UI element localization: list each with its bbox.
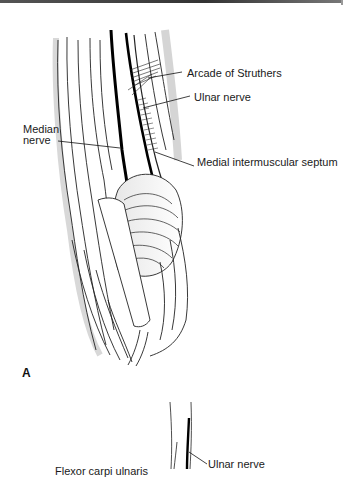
label-medial-intermuscular-septum: Medial intermuscular septum xyxy=(197,156,338,168)
panel-a-drawing xyxy=(56,30,188,366)
label-flexor-carpi-ulnaris: Flexor carpi ulnaris xyxy=(55,465,148,477)
label-median-nerve-line2: nerve xyxy=(23,134,51,146)
panel-letter-a: A xyxy=(22,366,31,380)
label-arcade-of-struthers: Arcade of Struthers xyxy=(187,67,282,79)
panel-b-drawing xyxy=(170,402,191,469)
label-ulnar-nerve-b: Ulnar nerve xyxy=(208,458,265,470)
panel-b-leader-lines xyxy=(189,452,207,464)
label-ulnar-nerve-a: Ulnar nerve xyxy=(194,91,251,103)
